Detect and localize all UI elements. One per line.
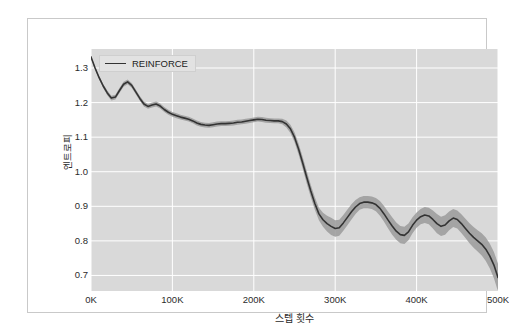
legend-line-swatch — [105, 63, 126, 64]
y-tick-label: 1.2 — [64, 98, 88, 108]
page-root: 엔트로피 0.70.80.91.01.11.21.3 REINFORCE 0K1… — [0, 0, 509, 330]
x-tick-label: 0K — [85, 294, 97, 305]
plot-area: REINFORCE — [91, 49, 498, 291]
confidence-band — [91, 56, 498, 291]
x-tick-label: 500K — [487, 294, 509, 305]
legend-label: REINFORCE — [132, 58, 188, 69]
y-tick-label: 0.7 — [64, 270, 88, 280]
x-tick-label: 300K — [324, 294, 346, 305]
y-tick-label: 1.1 — [64, 132, 88, 142]
y-tick-label: 1.3 — [64, 63, 88, 73]
y-tick-label: 0.9 — [64, 201, 88, 211]
series-line-reinforce — [91, 57, 498, 278]
x-tick-label: 400K — [406, 294, 428, 305]
legend: REINFORCE — [99, 55, 196, 72]
figure-card: 엔트로피 0.70.80.91.01.11.21.3 REINFORCE 0K1… — [27, 18, 487, 313]
x-axis-title: 스텝 횟수 — [91, 310, 498, 325]
chart-canvas — [91, 49, 498, 291]
y-tick-label: 0.8 — [64, 236, 88, 246]
y-axis-tick-labels: 0.70.80.91.01.11.21.3 — [60, 49, 88, 291]
y-tick-label: 1.0 — [64, 167, 88, 177]
x-tick-label: 100K — [161, 294, 183, 305]
x-tick-label: 200K — [243, 294, 265, 305]
x-axis-tick-labels: 0K100K200K300K400K500K — [91, 294, 498, 308]
